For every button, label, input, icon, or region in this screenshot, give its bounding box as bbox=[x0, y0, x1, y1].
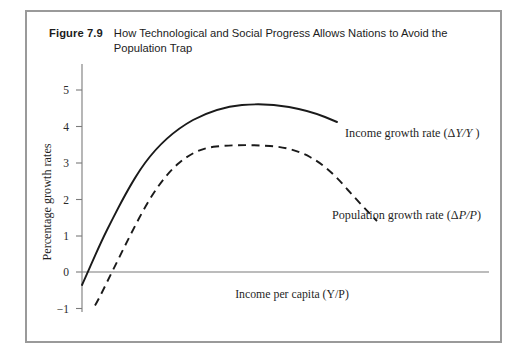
x-axis-title-close: ) bbox=[345, 287, 349, 301]
plot-area: 5 4 3 2 1 0 −1 Percentage growth rates I… bbox=[27, 12, 504, 345]
y-tick-label-minus1: −1 bbox=[57, 303, 69, 315]
income-growth-rate-label-main: Income growth rate (Δ bbox=[345, 126, 456, 140]
series-income-growth-curve bbox=[82, 104, 337, 285]
figure-panel: Figure 7.9How Technological and Social P… bbox=[25, 10, 502, 343]
income-growth-rate-label-italic: Y/Y bbox=[455, 126, 473, 140]
y-tick-label-2: 2 bbox=[63, 194, 69, 206]
population-growth-rate-label-close: ) bbox=[477, 208, 481, 222]
chart-svg: 5 4 3 2 1 0 −1 Percentage growth rates I… bbox=[27, 12, 504, 345]
population-growth-rate-label: Population growth rate (ΔP/P) bbox=[332, 208, 481, 222]
y-axis-title: Percentage growth rates bbox=[40, 143, 54, 260]
y-tick-label-1: 1 bbox=[63, 230, 69, 242]
x-axis-title-italic: Y/P bbox=[327, 287, 346, 301]
series-population-growth-curve bbox=[95, 145, 377, 305]
y-tick-label-4: 4 bbox=[63, 121, 69, 133]
population-growth-rate-label-main: Population growth rate (Δ bbox=[332, 208, 459, 222]
y-tick-label-5: 5 bbox=[63, 84, 69, 96]
income-growth-rate-label: Income growth rate (ΔY/Y ) bbox=[345, 126, 479, 140]
y-tick-label-0: 0 bbox=[63, 266, 69, 278]
income-growth-rate-label-close: ) bbox=[472, 126, 479, 140]
x-axis-title: Income per capita (Y/P) bbox=[235, 287, 349, 301]
y-tick-label-3: 3 bbox=[63, 157, 69, 169]
x-axis-title-main: Income per capita ( bbox=[235, 287, 326, 301]
population-growth-rate-label-italic: P/P bbox=[458, 208, 478, 222]
